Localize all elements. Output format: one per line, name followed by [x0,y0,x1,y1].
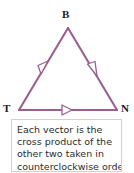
arrowhead-b-to-n-icon [88,62,98,77]
arrowhead-t-to-b-icon [38,61,48,74]
caption-line: other two taken in [17,148,121,160]
caption-line: counterclockwise order. [17,161,121,172]
arrowhead-t-to-n-icon [62,105,72,115]
vector-triangle-figure: B T N Each vector is the cross product o… [0,0,134,173]
vertex-label-n: N [121,103,129,114]
caption-line: cross product of the [17,136,121,148]
caption-box: Each vector is the cross product of the … [11,119,122,172]
vertex-label-b: B [62,9,69,20]
vertex-label-t: T [3,103,10,114]
caption-line: Each vector is the [17,124,121,136]
